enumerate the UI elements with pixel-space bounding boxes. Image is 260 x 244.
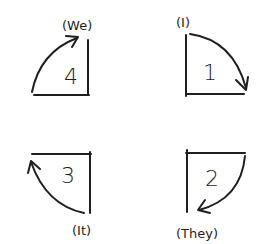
quadrant-1-arc-arrow xyxy=(190,34,246,88)
quadrant-1-arrowhead-icon xyxy=(236,77,248,90)
quadrant-3: 3 (It) xyxy=(28,152,91,238)
quadrant-4-number: 4 xyxy=(64,64,78,89)
quadrant-2: 2 (They) xyxy=(176,150,245,241)
quadrant-1-number: 1 xyxy=(203,60,217,85)
quadrant-4-label: (We) xyxy=(62,18,92,33)
quadrant-1: 1 (I) xyxy=(176,15,248,96)
quadrant-4: 4 (We) xyxy=(32,18,92,95)
quadrant-3-number: 3 xyxy=(61,163,75,188)
quadrant-1-label: (I) xyxy=(176,15,190,30)
four-quadrant-diagram: 4 (We) 1 (I) 3 (It) 2 (They) xyxy=(0,0,260,244)
quadrant-2-number: 2 xyxy=(205,166,219,191)
quadrant-3-arc-arrow xyxy=(31,162,84,213)
quadrant-3-label: (It) xyxy=(72,223,91,238)
quadrant-2-label: (They) xyxy=(176,226,218,241)
